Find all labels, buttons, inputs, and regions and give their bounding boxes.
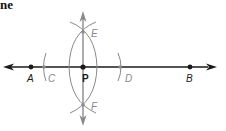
label-e: E bbox=[91, 28, 98, 39]
label-p: P bbox=[82, 73, 89, 84]
label-c: C bbox=[48, 73, 56, 84]
label-d: D bbox=[125, 73, 132, 84]
point-p bbox=[80, 64, 85, 69]
point-a bbox=[29, 65, 34, 70]
line-ab bbox=[3, 64, 217, 71]
label-a: A bbox=[26, 73, 34, 84]
point-f bbox=[81, 103, 85, 107]
point-c bbox=[42, 65, 46, 69]
perpendicular-construction-diagram: A C P D B E F bbox=[0, 0, 226, 131]
label-b: B bbox=[186, 73, 193, 84]
point-e bbox=[81, 30, 85, 34]
label-f: F bbox=[91, 101, 98, 112]
point-b bbox=[188, 65, 193, 70]
point-d bbox=[118, 65, 122, 69]
